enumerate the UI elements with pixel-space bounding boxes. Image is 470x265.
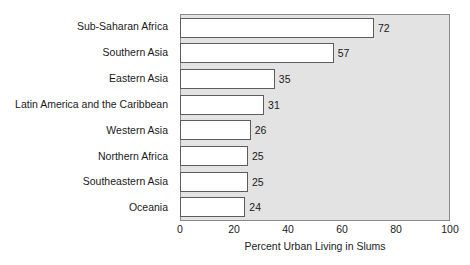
- x-tick-label: 60: [336, 223, 348, 235]
- bar-row: 25: [181, 143, 449, 169]
- category-label: Northern Africa: [0, 143, 174, 169]
- bar-row: 57: [181, 41, 449, 67]
- bar: [180, 172, 248, 192]
- bar-value-label: 35: [279, 73, 291, 85]
- category-axis: Sub-Saharan Africa Southern Asia Eastern…: [0, 14, 174, 221]
- bar-row: 24: [181, 194, 449, 220]
- category-label: Eastern Asia: [0, 66, 174, 92]
- bar-value-label: 31: [268, 99, 280, 111]
- x-tick-label: 20: [228, 223, 240, 235]
- x-tick-label: 100: [441, 223, 459, 235]
- category-label: Southeastern Asia: [0, 169, 174, 195]
- category-label: Western Asia: [0, 118, 174, 144]
- bar-value-label: 25: [252, 176, 264, 188]
- bar-value-label: 25: [252, 150, 264, 162]
- x-axis-title: Percent Urban Living in Slums: [180, 240, 450, 252]
- bar-row: 31: [181, 92, 449, 118]
- bar-row: 35: [181, 66, 449, 92]
- bar-row: 26: [181, 118, 449, 144]
- x-tick-label: 40: [282, 223, 294, 235]
- bar-value-label: 72: [378, 22, 390, 34]
- bar: [180, 197, 245, 217]
- bar-row: 72: [181, 15, 449, 41]
- plot-area: 72 57 35 31 26 25: [180, 14, 450, 221]
- bar-value-label: 26: [255, 124, 267, 136]
- bar: [180, 95, 264, 115]
- x-tick-label: 80: [390, 223, 402, 235]
- bar-value-label: 24: [249, 201, 261, 213]
- bar: [180, 146, 248, 166]
- category-label: Oceania: [0, 195, 174, 221]
- bar: [180, 69, 275, 89]
- bar-chart: Sub-Saharan Africa Southern Asia Eastern…: [0, 0, 470, 265]
- bar-row: 25: [181, 169, 449, 195]
- bar: [180, 18, 374, 38]
- x-tick-label: 0: [177, 223, 183, 235]
- bars-layer: 72 57 35 31 26 25: [181, 15, 449, 220]
- bar: [180, 43, 334, 63]
- category-label: Latin America and the Caribbean: [0, 92, 174, 118]
- bar-value-label: 57: [338, 47, 350, 59]
- bar: [180, 120, 251, 140]
- category-label: Sub-Saharan Africa: [0, 14, 174, 40]
- category-label: Southern Asia: [0, 40, 174, 66]
- x-axis-ticks: 0 20 40 60 80 100: [180, 223, 450, 237]
